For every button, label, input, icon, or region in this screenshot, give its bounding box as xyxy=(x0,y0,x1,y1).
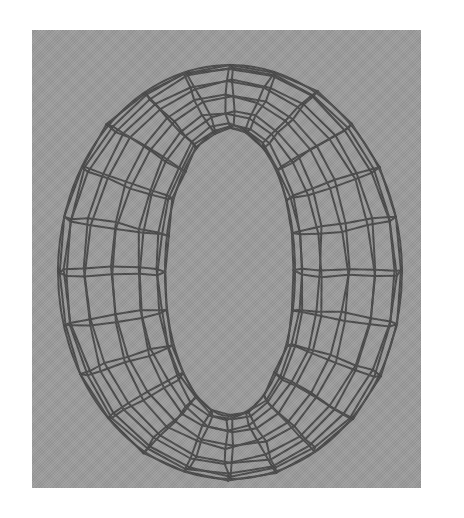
mesh-edge xyxy=(372,217,389,218)
mesh-edge xyxy=(320,269,350,270)
mesh-edge xyxy=(371,318,390,321)
mesh-edge xyxy=(113,95,146,127)
mesh-edge xyxy=(232,446,233,463)
mesh-edge xyxy=(375,270,394,271)
mesh-edge xyxy=(334,370,355,409)
mesh-edge xyxy=(116,318,142,322)
mesh-edge xyxy=(184,74,187,75)
mesh-edge xyxy=(168,348,179,380)
mesh-edge xyxy=(112,274,139,275)
mesh-edge xyxy=(315,418,350,447)
mesh-edge xyxy=(231,463,232,477)
mesh-edge xyxy=(389,217,394,271)
figure-panel xyxy=(32,30,421,488)
mesh-edge xyxy=(71,218,88,219)
mesh-edge xyxy=(373,321,391,370)
mesh-edge xyxy=(316,363,336,398)
mesh-edge xyxy=(321,316,345,321)
mesh-edge xyxy=(257,413,279,428)
mesh-edge xyxy=(368,221,390,225)
mesh-edge xyxy=(225,431,228,449)
torus-wireframe xyxy=(32,30,421,488)
mesh-edge xyxy=(246,413,249,426)
mesh-edge xyxy=(66,325,71,326)
mesh-edge xyxy=(335,180,346,223)
mesh-edge xyxy=(345,321,370,324)
mesh-edge xyxy=(314,96,349,128)
mesh-edge xyxy=(208,416,212,427)
mesh-edge xyxy=(116,310,141,314)
mesh-edge xyxy=(112,418,148,448)
mesh-edge xyxy=(142,314,159,319)
mesh-edge xyxy=(164,388,182,414)
mesh-edge xyxy=(111,267,139,268)
mesh-edge xyxy=(91,314,116,319)
mesh-edge xyxy=(180,115,202,132)
mesh-edge xyxy=(356,324,371,370)
mesh-edge xyxy=(233,96,234,111)
mesh-edge xyxy=(298,156,312,189)
mesh-edge xyxy=(304,104,336,135)
mesh-edge xyxy=(116,222,139,229)
mesh-edge xyxy=(70,319,90,323)
mesh-edge xyxy=(85,274,113,276)
mesh-edge xyxy=(126,145,145,181)
mesh-edge xyxy=(356,318,371,365)
mesh-edge xyxy=(225,449,226,464)
mesh-edge xyxy=(84,267,111,269)
mesh-edge xyxy=(91,225,116,229)
mesh-edge xyxy=(186,407,209,427)
mesh-edge xyxy=(349,275,376,276)
mesh-edge xyxy=(329,139,355,179)
mesh-edge xyxy=(160,422,176,436)
mesh-edge xyxy=(348,128,374,169)
mesh-edge xyxy=(202,427,209,440)
mesh-edge xyxy=(70,323,90,371)
mesh-edge xyxy=(227,69,229,81)
mesh-edge xyxy=(298,107,330,139)
mesh-edge xyxy=(372,173,390,221)
mesh-edge xyxy=(302,269,320,271)
mesh-edge xyxy=(130,138,150,151)
mesh-edge xyxy=(345,131,372,173)
mesh-edge xyxy=(185,117,211,136)
mesh-edge xyxy=(90,322,116,325)
mesh-edge xyxy=(350,269,376,270)
mesh-edge xyxy=(225,464,229,474)
mesh-edge xyxy=(146,74,183,95)
mesh-edge xyxy=(226,81,227,95)
mesh-edge xyxy=(88,375,112,418)
mesh-edge xyxy=(370,324,389,326)
mesh-edge xyxy=(202,115,210,127)
mesh-edge xyxy=(232,68,233,80)
mesh-edge xyxy=(346,218,373,223)
mesh-edge xyxy=(234,111,235,125)
mesh-edge xyxy=(317,146,335,180)
mesh-edge xyxy=(322,275,349,277)
mesh-edge xyxy=(322,223,346,226)
mesh-edge xyxy=(278,132,299,155)
mesh-edge xyxy=(371,270,375,319)
mesh-edge xyxy=(279,386,296,413)
mesh-edge xyxy=(232,432,233,446)
mesh-edge xyxy=(300,231,303,268)
mesh-edge xyxy=(266,426,294,441)
mesh-edge xyxy=(227,420,228,431)
mesh-edge xyxy=(85,277,91,326)
mesh-edge xyxy=(143,233,162,234)
mesh-edge xyxy=(270,143,282,166)
mesh-edge xyxy=(71,172,88,222)
mesh-edge xyxy=(140,274,157,275)
mesh-edge xyxy=(145,118,168,145)
mesh-edge xyxy=(356,366,373,370)
mesh-edge xyxy=(67,276,85,277)
silhouette-outline xyxy=(165,128,295,416)
mesh-edge xyxy=(139,267,157,269)
